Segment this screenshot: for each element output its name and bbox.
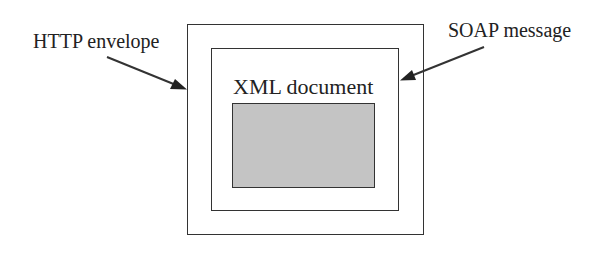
- soap-message-label: SOAP message: [448, 20, 571, 40]
- soap-http-nesting-diagram: HTTP envelope SOAP message XML document: [0, 0, 607, 253]
- http-envelope-arrow-icon: [107, 57, 187, 90]
- xml-document-content-box: [232, 103, 375, 188]
- xml-document-label: XML document: [233, 76, 373, 98]
- http-envelope-label: HTTP envelope: [33, 31, 159, 51]
